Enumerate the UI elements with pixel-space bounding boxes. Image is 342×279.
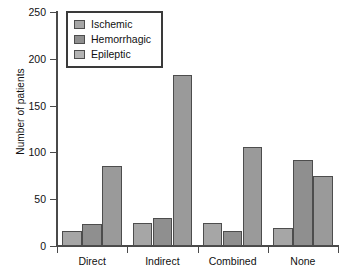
- legend-swatch-icon: [74, 50, 85, 59]
- bar: [273, 228, 293, 246]
- x-tick-label: None: [258, 256, 342, 267]
- bar: [313, 176, 333, 246]
- y-tick: [50, 106, 57, 107]
- x-tick: [268, 247, 269, 253]
- bar: [102, 166, 122, 246]
- legend: IschemicHemorrhagicEpileptic: [66, 11, 163, 68]
- legend-item: Hemorrhagic: [74, 32, 151, 47]
- y-tick-label: 200: [6, 54, 46, 65]
- y-tick-label: 0: [6, 241, 46, 252]
- y-tick: [50, 199, 57, 200]
- legend-swatch-icon: [74, 35, 85, 44]
- bar: [243, 147, 263, 246]
- y-tick-label: 50: [6, 194, 46, 205]
- y-tick: [50, 12, 57, 13]
- y-tick: [50, 59, 57, 60]
- x-tick: [127, 247, 128, 253]
- bar: [153, 218, 173, 246]
- legend-swatch-icon: [74, 20, 85, 29]
- y-tick-label: 150: [6, 101, 46, 112]
- x-tick: [198, 247, 199, 253]
- bar: [223, 231, 243, 246]
- y-tick-label: 100: [6, 147, 46, 158]
- y-tick: [50, 152, 57, 153]
- bar: [82, 224, 102, 246]
- bar-chart: Number of patients 050100150200250 Direc…: [0, 0, 342, 279]
- x-tick: [57, 247, 58, 253]
- x-tick: [338, 247, 339, 253]
- legend-label: Ischemic: [91, 19, 132, 30]
- legend-item: Ischemic: [74, 17, 151, 32]
- bar: [133, 223, 153, 246]
- y-tick: [50, 246, 57, 247]
- bar: [203, 223, 223, 246]
- legend-label: Hemorrhagic: [91, 34, 151, 45]
- y-tick-label: 250: [6, 7, 46, 18]
- bar: [62, 231, 82, 246]
- bar: [173, 75, 193, 246]
- legend-label: Epileptic: [91, 49, 131, 60]
- legend-item: Epileptic: [74, 47, 151, 62]
- bar: [293, 160, 313, 246]
